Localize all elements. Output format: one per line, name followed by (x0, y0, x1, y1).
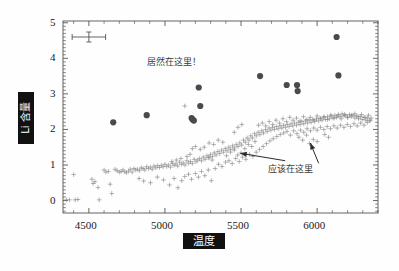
x-tick-label: 4500 (75, 219, 97, 231)
expected-annotation: 应该在这里 (268, 162, 313, 175)
data-point-circle (110, 119, 116, 125)
data-point-circle (335, 72, 341, 78)
data-point-circle (284, 82, 290, 88)
y-tick-label: 1 (50, 158, 56, 170)
y-tick-label: 0 (50, 194, 56, 206)
figure-stage: Li 含量 温度 居然在这里！ 应该在这里 4500500055006000 0… (0, 0, 399, 271)
data-point-circle (197, 103, 203, 109)
data-point-circle (257, 73, 263, 79)
x-tick-label: 6000 (303, 219, 325, 231)
y-axis-label: Li 含量 (18, 92, 34, 144)
y-tick-label: 3 (50, 87, 56, 99)
y-tick-label: 4 (50, 51, 56, 63)
y-tick-label: 5 (50, 16, 56, 28)
x-tick-label: 5000 (151, 219, 173, 231)
figure-background (0, 0, 399, 271)
surprise-annotation: 居然在这里！ (147, 55, 201, 68)
data-point-circle (144, 112, 150, 118)
data-point-circle (196, 84, 202, 90)
y-axis-label-text: Li 含量 (21, 102, 31, 134)
data-point-circle (334, 34, 340, 40)
data-point-circle (191, 117, 197, 123)
y-tick-label: 2 (50, 122, 56, 134)
data-point-circle (295, 88, 301, 94)
data-point-circle (294, 82, 300, 88)
x-tick-label: 5500 (227, 219, 249, 231)
x-axis-label: 温度 (183, 233, 225, 249)
scatter-plot-figure (0, 0, 399, 271)
